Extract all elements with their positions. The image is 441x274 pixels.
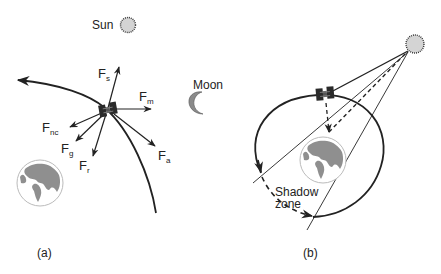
force-vector-r [93, 114, 106, 156]
panel-a-label: (a) [37, 246, 52, 260]
panel-b-label: (b) [303, 246, 318, 260]
force-label-r: Fr [79, 158, 90, 175]
panel-b: Shadow zone (b) [253, 35, 424, 260]
force-label-s: Fs [98, 66, 110, 83]
force-label-nc: Fnc [42, 120, 58, 137]
shadow-zone-label-line2: zone [275, 197, 301, 211]
sun-icon [121, 18, 136, 33]
moon-icon [189, 92, 203, 114]
earth-icon-b [300, 137, 346, 183]
moon-label: Moon [193, 78, 223, 92]
orbit-perturbation-diagram: Sun Moon Fs Fm Fnc Fg Fr Fa (a [0, 0, 441, 274]
force-label-g: Fg [61, 141, 73, 158]
force-label-a: Fa [158, 148, 171, 165]
satellite-to-earth-dashed [326, 103, 329, 132]
force-vector-a [114, 114, 155, 146]
panel-a: Sun Moon Fs Fm Fnc Fg Fr Fa (a [17, 18, 223, 261]
earth-icon [17, 160, 63, 206]
sun-to-earth-dashed [329, 54, 405, 132]
sun-label: Sun [92, 18, 113, 32]
satellite-icon-b [315, 86, 334, 101]
sun-icon-b [406, 35, 424, 53]
force-label-m: Fm [139, 89, 154, 106]
